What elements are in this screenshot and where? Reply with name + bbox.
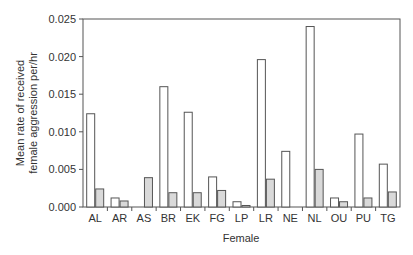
plot-area [83,19,400,207]
bar-br-series-1 [160,87,168,207]
y-axis-ticks: 0.0000.0050.0100.0150.0200.025 [48,13,83,213]
bar-lr-series-2 [266,179,274,207]
x-tick-label: PU [356,212,371,224]
x-tick-label: EK [185,212,200,224]
x-tick-label: LP [235,212,248,224]
bars [87,27,397,207]
bar-al-series-2 [96,189,104,207]
bar-pu-series-1 [355,134,363,207]
x-tick-label: AL [88,212,101,224]
bar-fg-series-2 [218,190,226,207]
bar-ek-series-2 [193,193,201,207]
y-tick-label: 0.015 [48,88,76,100]
y-axis-title-line-1: Mean rate of received [14,60,26,166]
bar-ar-series-1 [111,198,119,207]
plot-frame [83,19,400,207]
y-tick-label: 0.010 [48,126,76,138]
x-tick-label: AR [112,212,127,224]
bar-as-series-2 [144,178,152,207]
bar-br-series-2 [169,193,177,207]
y-tick-label: 0.020 [48,51,76,63]
bar-ne-series-1 [282,151,290,207]
bar-nl-series-1 [306,27,314,207]
y-tick-label: 0.025 [48,13,76,25]
bar-nl-series-2 [315,169,323,207]
x-tick-label: BR [161,212,176,224]
bar-ar-series-2 [120,201,128,207]
bar-tg-series-1 [379,164,387,207]
bar-chart: Mean rate of received female aggression … [0,0,413,255]
x-tick-label: NE [283,212,298,224]
bar-ek-series-1 [184,112,192,207]
bar-ou-series-1 [331,198,339,207]
x-axis-title: Female [223,232,260,244]
x-tick-label: LR [259,212,273,224]
y-tick-label: 0.005 [48,163,76,175]
bar-al-series-1 [87,114,95,207]
bar-lr-series-1 [257,60,265,207]
y-axis-title: Mean rate of received female aggression … [14,52,39,174]
bar-tg-series-2 [388,192,396,207]
x-tick-label: NL [308,212,322,224]
bar-lp-series-2 [242,205,250,207]
x-tick-label: FG [209,212,224,224]
bar-lp-series-1 [233,202,241,207]
y-tick-label: 0.000 [48,201,76,213]
y-axis-title-line-2: female aggression per/hr [27,52,39,174]
x-tick-label: OU [331,212,348,224]
bar-ou-series-2 [340,202,348,207]
x-tick-label: TG [380,212,395,224]
x-tick-label: AS [137,212,152,224]
x-axis-ticks: ALARASBREKFGLPLRNENLOUPUTG [88,207,395,224]
bar-fg-series-1 [209,177,217,207]
bar-pu-series-2 [364,198,372,207]
